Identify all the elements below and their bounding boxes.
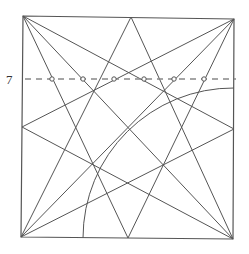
intersection-marker xyxy=(142,77,146,81)
tr-to-left-mid-line xyxy=(22,19,234,127)
construction-lines xyxy=(21,16,234,239)
intersection-marker xyxy=(112,77,116,81)
tr-to-bottom-mid-line xyxy=(128,19,234,238)
geometry-diagram: 7 xyxy=(0,0,249,254)
intersection-marker xyxy=(81,77,85,81)
intersection-marker xyxy=(202,77,206,81)
intersection-marker xyxy=(172,77,176,81)
top-point-to-br-line xyxy=(131,17,233,239)
intersection-marker xyxy=(50,77,54,81)
diagonal-tr-bl-line xyxy=(21,19,234,237)
top-point-to-bl-line xyxy=(21,17,131,237)
br-to-left-mid-line xyxy=(22,127,233,239)
row-label: 7 xyxy=(6,72,13,87)
